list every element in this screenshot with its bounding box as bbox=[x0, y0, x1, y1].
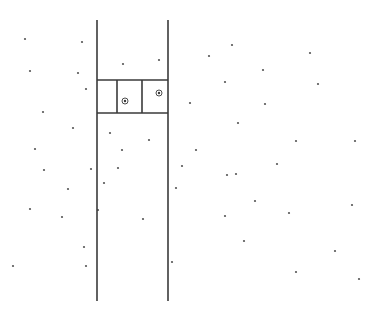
dot bbox=[226, 174, 228, 176]
dot bbox=[309, 52, 311, 54]
dot bbox=[264, 103, 266, 105]
dot bbox=[142, 218, 144, 220]
dot bbox=[85, 265, 87, 267]
dot bbox=[12, 265, 14, 267]
dot bbox=[175, 187, 177, 189]
dot bbox=[29, 70, 31, 72]
dot bbox=[85, 88, 87, 90]
dot bbox=[29, 208, 31, 210]
dot bbox=[158, 59, 160, 61]
dot bbox=[72, 127, 74, 129]
dot bbox=[317, 83, 319, 85]
dot bbox=[224, 81, 226, 83]
dot bbox=[67, 188, 69, 190]
dot bbox=[83, 246, 85, 248]
dot bbox=[354, 140, 356, 142]
dot bbox=[195, 149, 197, 151]
vertical-rails bbox=[97, 20, 168, 301]
dot bbox=[24, 38, 26, 40]
dot bbox=[34, 148, 36, 150]
dot bbox=[81, 41, 83, 43]
dot bbox=[276, 163, 278, 165]
marker-center bbox=[158, 92, 160, 94]
dot bbox=[42, 111, 44, 113]
dot bbox=[254, 200, 256, 202]
dot bbox=[61, 216, 63, 218]
dot bbox=[295, 140, 297, 142]
dot bbox=[90, 168, 92, 170]
dot bbox=[334, 250, 336, 252]
dot bbox=[121, 149, 123, 151]
dot bbox=[171, 261, 173, 263]
dot bbox=[109, 132, 111, 134]
dot bbox=[77, 72, 79, 74]
dot bbox=[103, 182, 105, 184]
dot bbox=[122, 63, 124, 65]
dot bbox=[208, 55, 210, 57]
dot bbox=[235, 173, 237, 175]
dot bbox=[117, 167, 119, 169]
dot bbox=[358, 278, 360, 280]
diagram-canvas bbox=[0, 0, 372, 319]
dot bbox=[189, 102, 191, 104]
dot bbox=[231, 44, 233, 46]
dot bbox=[224, 215, 226, 217]
dot bbox=[262, 69, 264, 71]
dot bbox=[181, 165, 183, 167]
dot bbox=[148, 139, 150, 141]
dot bbox=[43, 169, 45, 171]
dot bbox=[351, 204, 353, 206]
dot bbox=[237, 122, 239, 124]
dot bbox=[243, 240, 245, 242]
cell-block bbox=[97, 80, 168, 113]
scatter-dots bbox=[12, 38, 360, 280]
dot bbox=[295, 271, 297, 273]
dot bbox=[288, 212, 290, 214]
marker-center bbox=[124, 100, 126, 102]
